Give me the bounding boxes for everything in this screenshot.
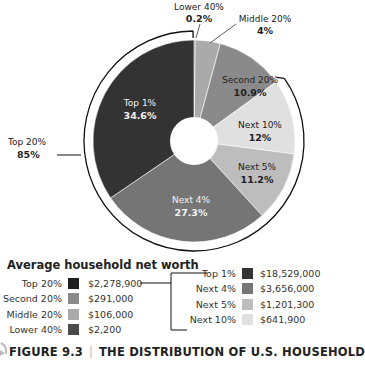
caption-separator: | [89, 345, 93, 359]
figure-number: FIGURE 9.3 [9, 345, 83, 359]
figure-caption: FIGURE 9.3|THE DISTRIBUTION OF U.S. HOUS… [9, 345, 365, 359]
caption-text: THE DISTRIBUTION OF U.S. HOUSEHOLD [99, 345, 365, 359]
caption-arrow-icon [0, 340, 9, 360]
